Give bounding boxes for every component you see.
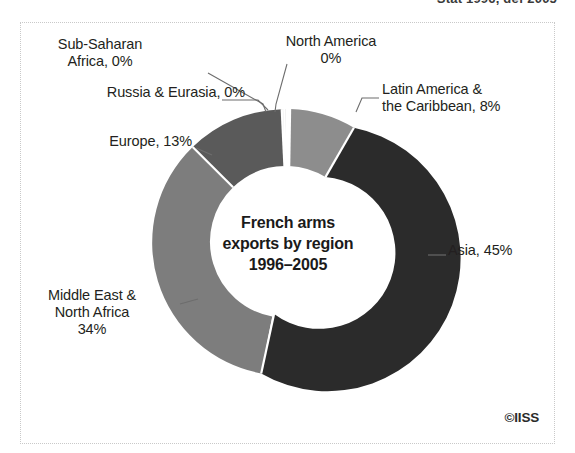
- label-asia: Asia, 45%: [448, 242, 568, 259]
- label-latin-america: Latin America & the Caribbean, 8%: [382, 81, 562, 115]
- sep-6: [284, 109, 285, 166]
- sep-1: [289, 109, 290, 166]
- center-line-1: French arms: [196, 212, 380, 233]
- label-sub-saharan-africa: Sub-Saharan Africa, 0%: [20, 36, 180, 70]
- label-russia-eurasia: Russia & Eurasia, 0%: [25, 84, 245, 101]
- label-middle-east-north-africa: Middle East & North Africa 34%: [7, 287, 177, 338]
- leader-north-america: [275, 64, 287, 112]
- leader-latin: [356, 98, 379, 112]
- leader-russia: [222, 100, 268, 110]
- label-north-america: North America 0%: [266, 33, 396, 67]
- copyright-credit: ©IISS: [505, 410, 539, 425]
- center-line-3: 1996–2005: [196, 254, 380, 275]
- chart-page: Stat 1996, def 2005: [0, 0, 575, 453]
- center-line-2: exports by region: [196, 233, 380, 254]
- donut-center-title: French arms exports by region 1996–2005: [196, 212, 380, 275]
- label-europe: Europe, 13%: [42, 133, 192, 150]
